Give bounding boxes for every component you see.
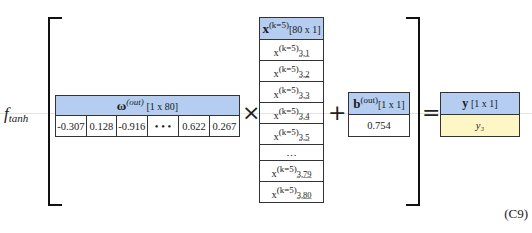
equation-number: (C9): [504, 206, 528, 222]
x-vector-table: x(k=5)[80 x 1] x(k=5)3,1 x(k=5)3,2 x(k=5…: [259, 17, 324, 203]
omega-weights-table: ω(out) [1 x 80] -0.307 0.128 -0.916 • • …: [55, 95, 240, 137]
omega-value: -0.307: [56, 116, 87, 137]
x-vector-row: x(k=5)3,79: [260, 160, 324, 181]
omega-value: 0.128: [86, 116, 116, 137]
output-value: y₃: [441, 115, 520, 137]
multiply-operator: ×: [242, 100, 260, 125]
x-vector-ellipsis-row: …: [260, 144, 324, 160]
x-vector-row: x(k=5)3,80: [260, 181, 324, 202]
omega-value: 0.622: [179, 116, 209, 137]
equals-operator: =: [422, 100, 440, 125]
output-header: y [1 x 1]: [441, 93, 520, 115]
bias-header: b(out)[1 x 1]: [349, 93, 410, 115]
x-vector-row: x(k=5)3,1: [260, 40, 324, 61]
output-table: y [1 x 1] y₃: [440, 92, 520, 137]
x-vector-header: x(k=5)[80 x 1]: [260, 18, 324, 40]
omega-header: ω(out) [1 x 80]: [56, 96, 240, 116]
omega-value: 0.267: [209, 116, 239, 137]
activation-function-label: ftanh: [4, 104, 28, 124]
bias-table: b(out)[1 x 1] 0.754: [348, 92, 410, 137]
x-vector-row: x(k=5)3,4: [260, 102, 324, 123]
plus-operator: +: [328, 100, 346, 125]
x-vector-row: x(k=5)3,3: [260, 81, 324, 102]
x-vector-row: x(k=5)3,2: [260, 60, 324, 81]
omega-value: -0.916: [116, 116, 147, 137]
omega-ellipsis: • • •: [147, 116, 179, 137]
x-vector-row: x(k=5)3,5: [260, 123, 324, 144]
bias-value: 0.754: [349, 115, 410, 137]
